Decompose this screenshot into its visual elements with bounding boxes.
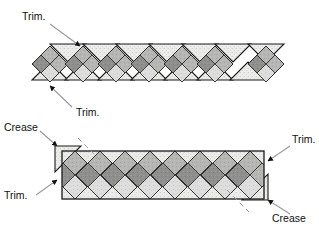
pieced-diamond-units-row xyxy=(32,44,284,82)
label-trim-top-left: Trim. xyxy=(22,10,46,22)
diagram-root: Trim. Trim. Crease Trim. Trim. Crease xyxy=(0,0,319,228)
label-crease-right: Crease xyxy=(272,212,306,224)
label-crease-left: Crease xyxy=(4,121,38,133)
leader-crease-left xyxy=(40,131,57,146)
leader-trim-lower-right xyxy=(268,146,290,161)
leader-trim-top-left xyxy=(50,24,80,46)
leader-trim-bottom-left xyxy=(50,86,72,107)
leader-trim-lower-left xyxy=(36,180,57,195)
label-trim-lower-right: Trim. xyxy=(292,133,316,145)
assembled-border-strip xyxy=(51,146,274,200)
label-trim-lower-left: Trim. xyxy=(4,189,28,201)
label-trim-bottom-left: Trim. xyxy=(76,106,100,118)
quilt-border-assembly-figure: Trim. Trim. Crease Trim. Trim. Crease xyxy=(0,0,319,228)
